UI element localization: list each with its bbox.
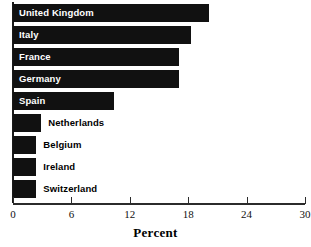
bar[interactable]: Spain	[13, 92, 114, 110]
bar[interactable]	[13, 136, 36, 154]
x-axis-tick-mark	[130, 197, 131, 204]
x-axis-tick-label: 24	[232, 208, 262, 220]
bar-category-label: Switzerland	[43, 180, 97, 198]
bar-row: Netherlands	[13, 114, 104, 132]
bar[interactable]: France	[13, 48, 179, 66]
x-axis-tick-mark	[71, 197, 72, 204]
bar-row: Belgium	[13, 136, 82, 154]
bar[interactable]	[13, 158, 36, 176]
bar[interactable]	[13, 180, 36, 198]
bar[interactable]: Italy	[13, 26, 191, 44]
x-axis-tick-mark	[13, 197, 14, 204]
x-axis-tick-mark	[305, 197, 306, 204]
x-axis-tick-label: 12	[115, 208, 145, 220]
x-axis-tick-label: 6	[56, 208, 86, 220]
bar[interactable]: United Kingdom	[13, 4, 209, 22]
bar-row: Ireland	[13, 158, 75, 176]
bar-row: Germany	[13, 70, 179, 88]
bar-row: Switzerland	[13, 180, 97, 198]
x-axis-tick-label: 30	[290, 208, 311, 220]
bar-category-label: Belgium	[43, 136, 81, 154]
bar-row: France	[13, 48, 179, 66]
bar-category-label: Germany	[19, 70, 61, 88]
bar-category-label: United Kingdom	[19, 4, 94, 22]
bar-row: United Kingdom	[13, 4, 209, 22]
bar[interactable]: Germany	[13, 70, 179, 88]
x-axis-tick-label: 18	[173, 208, 203, 220]
x-axis-tick-label: 0	[0, 208, 28, 220]
bar-category-label: France	[19, 48, 51, 66]
plot-area: United KingdomItalyFranceGermanySpainNet…	[0, 0, 311, 204]
bar-row: Italy	[13, 26, 191, 44]
bar-category-label: Netherlands	[48, 114, 104, 132]
x-axis-tick-mark	[188, 197, 189, 204]
bar-category-label: Italy	[19, 26, 39, 44]
bar[interactable]	[13, 114, 41, 132]
bar-category-label: Spain	[19, 92, 45, 110]
x-axis-title: Percent	[0, 225, 311, 241]
bar-chart: United KingdomItalyFranceGermanySpainNet…	[0, 0, 311, 247]
bar-category-label: Ireland	[43, 158, 75, 176]
x-axis-tick-mark	[247, 197, 248, 204]
bar-row: Spain	[13, 92, 114, 110]
x-axis-line	[13, 203, 305, 205]
